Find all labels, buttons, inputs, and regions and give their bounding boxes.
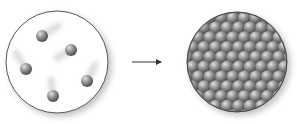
solid-particle [215, 110, 227, 122]
solid-state-panel [175, 2, 297, 122]
solid-particle [204, 110, 216, 122]
solid-particle [181, 110, 193, 122]
solid-particle [278, 100, 290, 112]
gas-particle [20, 63, 32, 75]
diagram-canvas [0, 0, 297, 124]
solid-particle [273, 12, 285, 24]
solid-particle [261, 110, 273, 122]
gas-particle [81, 75, 93, 87]
solid-particle [192, 90, 204, 102]
solid-particle [273, 110, 285, 122]
solid-particle [273, 90, 285, 102]
solid-particle [209, 2, 221, 14]
packed-particles [175, 2, 297, 122]
solid-particle [175, 100, 187, 112]
solid-particle [192, 12, 204, 24]
solid-particle [209, 100, 221, 112]
solid-particle [255, 2, 267, 14]
solid-particle [278, 21, 290, 33]
solid-particle [186, 100, 198, 112]
gas-particle [36, 30, 48, 42]
solid-particle [198, 100, 210, 112]
solid-particle [250, 110, 262, 122]
solid-particle [175, 41, 187, 53]
solid-particle [284, 12, 296, 24]
solid-particle [267, 100, 279, 112]
solid-particle [284, 31, 296, 43]
solid-particle [186, 2, 198, 14]
solid-particle [181, 90, 193, 102]
solid-particle [267, 2, 279, 14]
gas-particle [65, 44, 77, 56]
solid-particle [175, 61, 187, 73]
solid-particle [198, 2, 210, 14]
gas-particle [47, 90, 59, 102]
solid-particle [192, 110, 204, 122]
solid-particle [175, 2, 187, 14]
solid-particle [284, 110, 296, 122]
solid-particle [181, 12, 193, 24]
solid-particle [278, 2, 290, 14]
solid-particle [175, 21, 187, 33]
solid-particle [175, 80, 187, 92]
gas-state-panel [6, 11, 108, 113]
solid-particle [284, 90, 296, 102]
